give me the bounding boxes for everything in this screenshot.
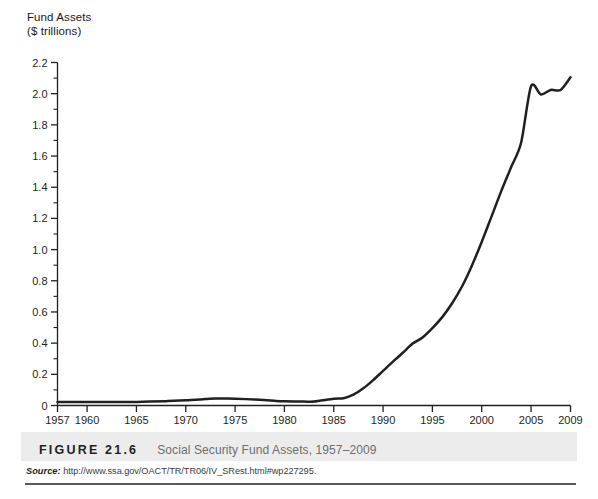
x-tick-label: 2000	[469, 414, 493, 426]
data-series-group	[58, 77, 571, 402]
y-tick-label: 2.0	[32, 88, 47, 100]
data-line	[58, 77, 571, 402]
source-line: Source: http://www.ssa.gov/OACT/TR/TR06/…	[26, 466, 316, 476]
y-tick-label: 1.0	[32, 244, 47, 256]
line-chart-svg: 00.20.40.60.81.01.21.41.61.82.02.2 19571…	[0, 0, 598, 430]
x-tick-label: 1970	[174, 414, 198, 426]
y-tick-label: 1.6	[32, 150, 47, 162]
figure-caption-text: Social Security Fund Assets, 1957–2009	[157, 443, 376, 457]
y-tick-label: 2.2	[32, 57, 47, 69]
y-tick-label: 1.4	[32, 181, 47, 193]
y-tick-label: 0	[41, 400, 47, 412]
source-url: http://www.ssa.gov/OACT/TR/TR06/IV_SRest…	[63, 466, 316, 476]
x-tick-label: 2005	[519, 414, 543, 426]
y-tick-label: 0.8	[32, 275, 47, 287]
y-tick-label: 0.2	[32, 368, 47, 380]
source-label: Source:	[26, 466, 61, 476]
figure-caption: FIGURE 21.6 Social Security Fund Assets,…	[39, 439, 377, 461]
x-tick-label: 1985	[321, 414, 345, 426]
x-tick-label: 1980	[272, 414, 296, 426]
y-tick-label: 1.8	[32, 119, 47, 131]
x-tick-label: 1960	[75, 414, 99, 426]
x-axis: 1957196019651970197519801985199019952000…	[45, 406, 582, 427]
y-tick-label: 0.4	[32, 337, 47, 349]
figure-container: Fund Assets ($ trillions) 00.20.40.60.81…	[0, 0, 598, 499]
y-tick-label: 0.6	[32, 306, 47, 318]
y-axis: 00.20.40.60.81.01.21.41.61.82.02.2	[32, 57, 57, 412]
x-tick-label: 2009	[558, 414, 582, 426]
x-tick-label: 1995	[420, 414, 444, 426]
x-tick-label: 1975	[223, 414, 247, 426]
x-tick-label: 1965	[124, 414, 148, 426]
bottom-rule	[25, 483, 576, 485]
chart-plot-area: 00.20.40.60.81.01.21.41.61.82.02.2 19571…	[0, 0, 598, 430]
x-tick-label: 1990	[371, 414, 395, 426]
y-tick-label: 1.2	[32, 212, 47, 224]
figure-number-label: FIGURE 21.6	[39, 443, 138, 457]
x-tick-label: 1957	[45, 414, 69, 426]
